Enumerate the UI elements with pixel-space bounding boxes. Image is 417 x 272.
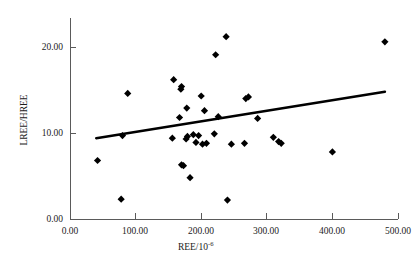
data-point bbox=[228, 141, 235, 148]
data-point bbox=[94, 157, 101, 164]
data-point bbox=[198, 92, 205, 99]
data-point bbox=[186, 174, 193, 181]
y-tick-label-10: 10.00 bbox=[42, 128, 64, 138]
y-axis-title: LREE/HREE bbox=[19, 94, 29, 145]
data-point bbox=[170, 76, 177, 83]
data-point bbox=[211, 130, 218, 137]
figure-root: 20.00 10.00 0.00 0.00 100.00 200.00 300.… bbox=[0, 0, 417, 272]
data-point bbox=[192, 139, 199, 146]
data-point bbox=[254, 115, 261, 122]
x-tick-label-200: 200.00 bbox=[188, 226, 214, 236]
x-tick-label-0: 0.00 bbox=[62, 226, 79, 236]
data-point bbox=[381, 38, 388, 45]
data-point bbox=[195, 132, 202, 139]
trend-line bbox=[96, 92, 385, 138]
data-point bbox=[118, 196, 125, 203]
y-tick-label-0: 0.00 bbox=[46, 214, 63, 224]
data-point bbox=[241, 140, 248, 147]
data-point bbox=[201, 107, 208, 114]
data-point bbox=[223, 33, 230, 40]
data-point bbox=[183, 104, 190, 111]
data-point bbox=[124, 90, 131, 97]
x-tick-label-100: 100.00 bbox=[122, 226, 148, 236]
x-tick-label-400: 400.00 bbox=[319, 226, 345, 236]
data-point bbox=[212, 51, 219, 58]
data-point-group bbox=[94, 33, 389, 204]
data-point bbox=[270, 134, 277, 141]
scatter-chart: 20.00 10.00 0.00 0.00 100.00 200.00 300.… bbox=[0, 0, 417, 272]
x-axis-title-exponent: -6 bbox=[208, 240, 214, 247]
data-point bbox=[224, 196, 231, 203]
y-tick-label-20: 20.00 bbox=[42, 42, 64, 52]
data-point bbox=[169, 135, 176, 142]
x-tick-label-500: 500.00 bbox=[385, 226, 411, 236]
x-axis-title-base: REE/10 bbox=[178, 242, 208, 252]
data-point bbox=[329, 148, 336, 155]
x-tick-label-300: 300.00 bbox=[253, 226, 279, 236]
data-point bbox=[176, 114, 183, 121]
x-axis-title: REE/10 -6 bbox=[178, 240, 214, 253]
